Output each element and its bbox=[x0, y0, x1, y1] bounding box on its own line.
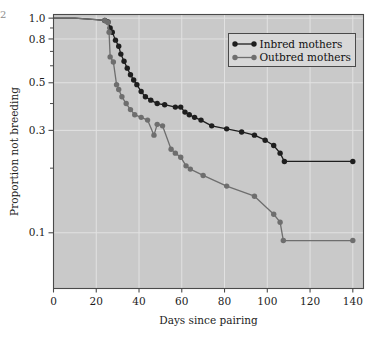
data-point-marker bbox=[252, 132, 257, 137]
x-axis-title: Days since pairing bbox=[159, 314, 258, 326]
data-point-marker bbox=[271, 212, 276, 217]
x-axis-tick-label: 20 bbox=[90, 295, 103, 307]
legend-marker-start-0 bbox=[232, 41, 237, 46]
data-point-marker bbox=[224, 126, 229, 131]
data-point-marker bbox=[168, 147, 173, 152]
data-point-marker bbox=[154, 122, 159, 127]
data-point-marker bbox=[131, 77, 136, 82]
data-point-marker bbox=[187, 112, 192, 117]
data-point-marker bbox=[271, 143, 276, 148]
data-point-marker bbox=[282, 159, 287, 164]
data-point-marker bbox=[116, 87, 121, 92]
data-point-marker bbox=[123, 101, 128, 106]
data-point-marker bbox=[138, 89, 143, 94]
y-axis-tick-label: 0.1 bbox=[29, 226, 46, 238]
data-point-marker bbox=[134, 82, 139, 87]
x-axis-tick-label: 100 bbox=[257, 295, 277, 307]
x-axis-tick-label: 60 bbox=[175, 295, 188, 307]
data-point-marker bbox=[116, 44, 121, 49]
data-point-marker bbox=[128, 72, 133, 77]
x-axis-tick-label: 120 bbox=[300, 295, 320, 307]
data-point-marker bbox=[118, 51, 123, 56]
data-point-marker bbox=[173, 150, 178, 155]
x-axis-tick-label: 40 bbox=[132, 295, 145, 307]
data-point-marker bbox=[107, 54, 112, 59]
figure-container: 2 020406080100120140Days since pairing1.… bbox=[0, 0, 381, 340]
legend-marker-end-0 bbox=[251, 41, 256, 46]
data-point-marker bbox=[277, 220, 282, 225]
y-axis-tick-label: 0.5 bbox=[29, 76, 46, 88]
data-point-marker bbox=[154, 101, 159, 106]
data-point-marker bbox=[105, 20, 110, 25]
legend-marker-end-1 bbox=[251, 55, 256, 60]
data-point-marker bbox=[281, 238, 286, 243]
data-point-marker bbox=[113, 37, 118, 42]
data-point-marker bbox=[178, 104, 183, 109]
data-point-marker bbox=[151, 132, 156, 137]
data-point-marker bbox=[125, 65, 130, 70]
data-point-marker bbox=[128, 107, 133, 112]
data-point-marker bbox=[224, 183, 229, 188]
data-point-marker bbox=[114, 82, 119, 87]
data-point-marker bbox=[209, 123, 214, 128]
data-point-marker bbox=[192, 115, 197, 120]
data-point-marker bbox=[239, 129, 244, 134]
data-point-marker bbox=[350, 159, 355, 164]
data-point-marker bbox=[119, 94, 124, 99]
legend-marker-start-1 bbox=[232, 55, 237, 60]
data-point-marker bbox=[111, 59, 116, 64]
data-point-marker bbox=[106, 30, 111, 35]
legend-label-0: Inbred mothers bbox=[260, 38, 343, 50]
data-point-marker bbox=[173, 104, 178, 109]
legend-label-1: Outbred mothers bbox=[260, 51, 352, 63]
x-axis-tick-label: 140 bbox=[343, 295, 363, 307]
y-axis-title: Proportion not breeding bbox=[8, 87, 20, 216]
data-point-marker bbox=[350, 238, 355, 243]
data-point-marker bbox=[160, 123, 165, 128]
data-point-marker bbox=[121, 59, 126, 64]
data-point-marker bbox=[200, 173, 205, 178]
data-point-marker bbox=[178, 154, 183, 159]
data-point-marker bbox=[252, 194, 257, 199]
data-point-marker bbox=[198, 117, 203, 122]
y-axis-tick-label: 0.3 bbox=[29, 124, 46, 136]
y-axis-tick-label: 0.8 bbox=[29, 33, 46, 45]
x-axis-tick-label: 80 bbox=[218, 295, 231, 307]
survival-curve-chart: 020406080100120140Days since pairing1.00… bbox=[0, 0, 381, 340]
y-axis-tick-label: 1.0 bbox=[29, 12, 46, 24]
data-point-marker bbox=[138, 115, 143, 120]
data-point-marker bbox=[262, 137, 267, 142]
data-point-marker bbox=[148, 97, 153, 102]
data-point-marker bbox=[188, 166, 193, 171]
data-point-marker bbox=[132, 112, 137, 117]
data-point-marker bbox=[143, 94, 148, 99]
data-point-marker bbox=[183, 163, 188, 168]
x-axis-tick-label: 0 bbox=[50, 295, 57, 307]
data-point-marker bbox=[162, 102, 167, 107]
data-point-marker bbox=[277, 150, 282, 155]
data-point-marker bbox=[145, 117, 150, 122]
